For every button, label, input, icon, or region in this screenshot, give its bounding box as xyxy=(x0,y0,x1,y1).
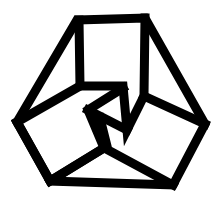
lower-right-fold xyxy=(100,118,173,185)
geometric-logo-icon xyxy=(0,0,223,204)
bottom-spoke xyxy=(50,148,104,181)
